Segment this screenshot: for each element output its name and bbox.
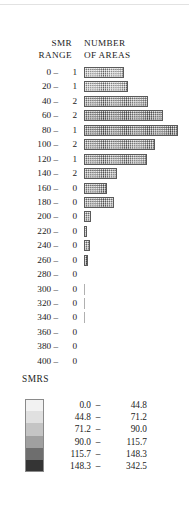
histogram-bar (84, 197, 114, 208)
bar-slot (84, 154, 147, 165)
histogram-bar (84, 96, 148, 107)
histogram-bar (84, 211, 91, 222)
legend-range-high: 71.2 (105, 411, 147, 423)
histogram-row: 320 –0 (0, 297, 189, 311)
histogram-row: 260 –0 (0, 254, 189, 268)
histogram-bar (84, 226, 87, 237)
smr-range-label: 180 – (0, 196, 58, 208)
smr-range-label: 60 – (0, 109, 58, 121)
smr-range-label: 160 – (0, 182, 58, 194)
bar-slot (84, 139, 155, 150)
legend-range-low: 44.8 (49, 411, 91, 423)
histogram-bar (84, 154, 147, 165)
bar-slot (84, 96, 148, 107)
legend-range-low: 0.0 (49, 399, 91, 411)
legend-range-text: 0.0–44.8 (49, 399, 171, 411)
legend-color-swatch (25, 436, 44, 448)
legend-range-text: 71.2–90.0 (49, 423, 171, 435)
legend-row: 44.8–71.2 (25, 411, 175, 423)
histogram-rows: 0 –120 –140 –260 –280 –1100 –2120 –1140 … (0, 66, 189, 369)
bar-slot (84, 110, 163, 121)
bar-slot (84, 125, 178, 136)
legend-color-swatch (25, 448, 44, 460)
smr-range-label: 240 – (0, 239, 58, 251)
number-of-areas-value: 0 (60, 340, 77, 352)
bar-slot (84, 255, 88, 266)
smr-range-label: 80 – (0, 124, 58, 136)
smr-range-label: 260 – (0, 254, 58, 266)
histogram-bar (84, 139, 155, 150)
legend-range-high: 44.8 (105, 399, 147, 411)
legend-row: 115.7–148.3 (25, 448, 175, 460)
histogram-bar (84, 110, 163, 121)
histogram-bar (84, 240, 90, 251)
histogram-row: 340 –0 (0, 311, 189, 325)
number-of-areas-header-line1: NUMBER (84, 38, 125, 48)
number-of-areas-value: 1 (60, 153, 77, 165)
legend-range-high: 90.0 (105, 423, 147, 435)
histogram-row: 400 –0 (0, 355, 189, 369)
number-of-areas-value: 0 (60, 210, 77, 222)
legend-range-high: 342.5 (105, 460, 147, 472)
legend-range-low: 148.3 (49, 460, 91, 472)
histogram-bar (84, 183, 107, 194)
histogram-bar (84, 255, 88, 266)
legend-color-swatch (25, 460, 44, 472)
smr-distribution-figure: SMRRANGE NUMBEROF AREAS 0 –120 –140 –260… (0, 0, 189, 509)
number-of-areas-value: 0 (60, 239, 77, 251)
legend-range-high: 115.7 (105, 436, 147, 448)
legend-color-swatch (25, 411, 44, 423)
smr-range-label: 380 – (0, 340, 58, 352)
legend-range-dash: – (91, 448, 105, 460)
histogram-row: 280 –0 (0, 268, 189, 282)
legend-range-text: 148.3–342.5 (49, 460, 171, 472)
histogram-row: 360 –0 (0, 326, 189, 340)
histogram-row: 200 –0 (0, 210, 189, 224)
number-of-areas-value: 0 (60, 355, 77, 367)
smr-range-label: 360 – (0, 326, 58, 338)
smr-range-label: 200 – (0, 210, 58, 222)
number-of-areas-value: 2 (60, 109, 77, 121)
histogram-row: 40 –2 (0, 95, 189, 109)
number-of-areas-value: 0 (60, 283, 77, 295)
bar-slot (84, 168, 117, 179)
histogram-row: 240 –0 (0, 239, 189, 253)
number-of-areas-value: 1 (60, 80, 77, 92)
legend-range-dash: – (91, 460, 105, 472)
histogram-bar (84, 284, 85, 295)
legend-range-dash: – (91, 423, 105, 435)
smr-range-label: 340 – (0, 311, 58, 323)
histogram-bar (84, 81, 128, 92)
bar-slot (84, 240, 90, 251)
histogram-bar (84, 125, 178, 136)
number-of-areas-value: 0 (60, 268, 77, 280)
legend-range-low: 71.2 (49, 423, 91, 435)
histogram-row: 100 –2 (0, 138, 189, 152)
smr-range-label: 280 – (0, 268, 58, 280)
number-of-areas-value: 0 (60, 182, 77, 194)
histogram-row: 160 –0 (0, 182, 189, 196)
histogram-row: 0 –1 (0, 66, 189, 80)
bar-slot (84, 211, 91, 222)
legend-range-dash: – (91, 436, 105, 448)
legend-range-dash: – (91, 399, 105, 411)
legend-color-swatch (25, 399, 44, 411)
legend-row: 148.3–342.5 (25, 460, 175, 472)
number-of-areas-value: 0 (60, 196, 77, 208)
number-of-areas-value: 0 (60, 254, 77, 266)
bar-slot (84, 298, 85, 309)
number-of-areas-value: 2 (60, 138, 77, 150)
number-of-areas-value: 0 (60, 297, 77, 309)
smr-range-label: 140 – (0, 167, 58, 179)
histogram-row: 380 –0 (0, 340, 189, 354)
legend-color-swatch (25, 423, 44, 435)
number-of-areas-value: 0 (60, 311, 77, 323)
smr-range-header-line2: RANGE (39, 50, 72, 60)
histogram-row: 140 –2 (0, 167, 189, 181)
legend-range-low: 115.7 (49, 448, 91, 460)
smr-range-label: 20 – (0, 80, 58, 92)
smr-range-label: 100 – (0, 138, 58, 150)
bar-slot (84, 81, 128, 92)
legend-range-dash: – (91, 411, 105, 423)
legend-row: 90.0–115.7 (25, 436, 175, 448)
